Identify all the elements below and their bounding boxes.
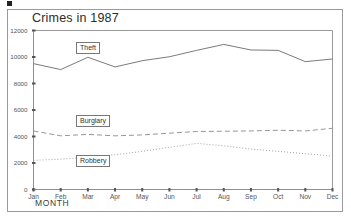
x-tick-label: Oct xyxy=(273,193,283,200)
y-tick-label: 10000 xyxy=(10,53,28,60)
x-tick-mark xyxy=(33,188,35,192)
x-tick-label: Sep xyxy=(245,193,257,201)
x-tick-mark xyxy=(277,188,279,192)
x-tick-mark xyxy=(223,188,225,192)
x-tick-mark xyxy=(250,188,252,192)
x-tick-label: Mar xyxy=(82,193,94,200)
x-tick-mark xyxy=(141,188,143,192)
y-tick-mark xyxy=(32,136,36,138)
x-tick-mark xyxy=(168,188,170,192)
y-tick-label: 12000 xyxy=(10,27,28,34)
x-tick-mark xyxy=(87,188,89,192)
x-tick-label: Apr xyxy=(110,193,121,201)
x-tick-mark xyxy=(332,188,334,192)
series-label-robbery: Robbery xyxy=(76,155,110,167)
y-tick-mark xyxy=(32,30,36,32)
chart-canvas: Crimes in 1987 0200040006000800010000120… xyxy=(0,0,351,220)
x-tick-mark xyxy=(60,188,62,192)
series-label-theft: Theft xyxy=(76,42,100,54)
x-axis: JanFebMarAprMayJunJulAugSepOctNovDec xyxy=(28,188,339,201)
y-tick-label: 8000 xyxy=(14,80,28,87)
y-tick-label: 4000 xyxy=(14,133,28,140)
x-tick-label: Nov xyxy=(299,193,311,200)
x-axis-title: MONTH xyxy=(35,198,69,208)
x-tick-label: Aug xyxy=(218,193,230,201)
chart-plot-area: 020004000600080001000012000 JanFebMarApr… xyxy=(0,0,351,220)
x-tick-mark xyxy=(304,188,306,192)
series-line-burglary xyxy=(34,128,333,136)
x-tick-label: Jun xyxy=(164,193,175,200)
y-axis: 020004000600080001000012000 xyxy=(10,27,332,193)
series-lines xyxy=(34,44,333,160)
y-tick-mark xyxy=(32,162,36,164)
y-tick-mark xyxy=(32,83,36,85)
x-tick-label: May xyxy=(136,193,149,201)
y-tick-label: 6000 xyxy=(14,106,28,113)
x-tick-mark xyxy=(114,188,116,192)
x-tick-mark xyxy=(196,188,198,192)
y-tick-mark xyxy=(32,56,36,58)
y-tick-mark xyxy=(32,109,36,111)
y-tick-label: 2000 xyxy=(14,159,28,166)
series-label-burglary: Burglary xyxy=(76,115,110,127)
x-tick-label: Jul xyxy=(192,193,201,200)
x-tick-label: Dec xyxy=(327,193,339,200)
